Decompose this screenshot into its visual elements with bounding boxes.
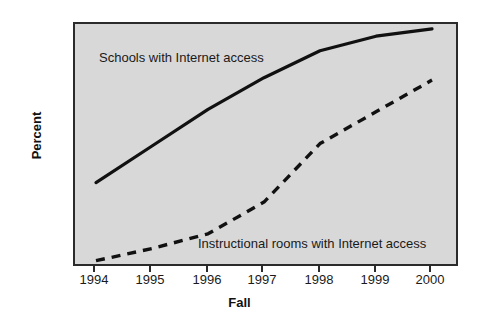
x-tick-label-1997: 1997 (232, 272, 292, 287)
series-annotation-rooms: Instructional rooms with Internet access (198, 236, 426, 251)
series-annotation-schools: Schools with Internet access (99, 50, 264, 65)
chart-figure: 100 90 80 70 60 50 40 30 (0, 0, 479, 323)
y-axis-title: Percent (29, 76, 44, 196)
x-tick-label-1998: 1998 (289, 272, 349, 287)
x-axis-title: Fall (0, 295, 479, 310)
x-tick-label-1996: 1996 (177, 272, 237, 287)
x-tick-label-1994: 1994 (64, 272, 124, 287)
series-line-rooms (96, 80, 432, 261)
x-tick-label-1995: 1995 (120, 272, 180, 287)
plot-area: Schools with Internet access Instruction… (73, 22, 458, 266)
x-tick-label-2000: 2000 (400, 272, 460, 287)
x-tick-label-1999: 1999 (345, 272, 405, 287)
